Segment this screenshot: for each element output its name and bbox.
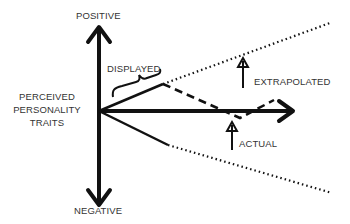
- displayed-lower-line: [99, 111, 168, 145]
- displayed-upper-line: [99, 84, 163, 111]
- negative-label: NEGATIVE: [74, 205, 122, 216]
- extrapolated-upper-line: [163, 23, 330, 84]
- positive-label: POSITIVE: [76, 10, 121, 21]
- displayed-label: DISPLAYED: [107, 63, 161, 74]
- actual-label: ACTUAL: [239, 138, 277, 149]
- extrapolated-label: EXTRAPOLATED: [254, 76, 331, 87]
- extrapolated-lower-line: [168, 145, 332, 193]
- axis-label-line3: TRAITS: [7, 117, 87, 128]
- axis-label-line1: PERCEIVED: [7, 91, 87, 102]
- axis-label-line2: PERSONALITY: [2, 104, 92, 115]
